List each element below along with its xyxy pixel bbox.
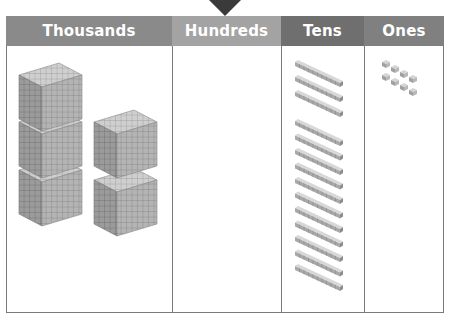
tens-blocks (295, 60, 343, 291)
base-ten-blocks (6, 16, 444, 314)
place-value-chart: Thousands Hundreds Tens Ones (6, 16, 444, 314)
down-arrow-icon (207, 0, 243, 17)
ones-blocks (382, 60, 417, 96)
thousands-blocks (19, 63, 157, 236)
